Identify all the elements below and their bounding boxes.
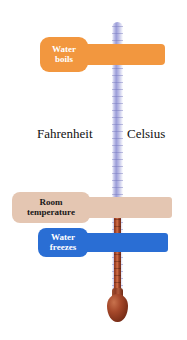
thermometer-bulb xyxy=(107,294,128,322)
fahrenheit-scale-label: Fahrenheit xyxy=(37,126,93,142)
room-temperature-label-line2: temperature xyxy=(27,207,75,217)
callout-tab-room-temperature: Room temperature xyxy=(12,192,90,223)
thermometer-diagram: Water boils 212° 100° Fahrenheit Celsius… xyxy=(0,0,187,340)
callout-tab-water-boils: Water boils xyxy=(40,37,88,72)
celsius-scale-label: Celsius xyxy=(127,126,165,142)
water-freezes-label-line2: freezes xyxy=(50,242,76,252)
water-boils-label-line2: boils xyxy=(55,54,73,64)
callout-tab-water-freezes: Water freezes xyxy=(38,228,88,257)
